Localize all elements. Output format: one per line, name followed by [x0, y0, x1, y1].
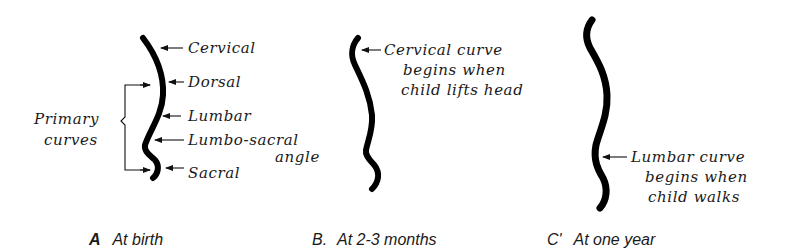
note-b-line2: begins when [403, 61, 506, 79]
primary-curves-bracket [121, 85, 150, 170]
label-primary: Primary [33, 110, 99, 128]
label-dorsal: Dorsal [187, 73, 241, 91]
note-c-line1: Lumbar curve [630, 148, 745, 166]
caption-letter-a: A [88, 231, 101, 248]
caption-letter-b: B. [312, 231, 327, 248]
note-b-line3: child lifts head [401, 81, 523, 99]
note-c-line2: begins when [645, 168, 748, 186]
spinal-curves-figure: Cervical Dorsal Lumbar Lumbo-sacral angl… [0, 0, 798, 248]
panel-c: Lumbar curve begins when child walks C' … [547, 20, 748, 248]
caption-b: At 2-3 months [336, 231, 437, 248]
panel-b: Cervical curve begins when child lifts h… [312, 38, 523, 248]
label-lumbar: Lumbar [187, 107, 251, 125]
label-lumbo-sacral: Lumbo-sacral [187, 131, 299, 149]
note-b-line1: Cervical curve [384, 41, 503, 59]
label-angle: angle [275, 148, 320, 166]
spine-at-one-year [587, 20, 607, 208]
label-cervical: Cervical [188, 39, 256, 57]
svg-text:A At birth: A At birth [88, 231, 163, 248]
label-sacral: Sacral [188, 164, 240, 182]
svg-text:B. At 2-3 months: B. At 2-3 months [312, 231, 437, 248]
label-curves: curves [44, 131, 98, 149]
spine-at-2-3-months [352, 38, 378, 189]
caption-c: At one year [572, 231, 656, 248]
panel-a: Cervical Dorsal Lumbar Lumbo-sacral angl… [33, 38, 320, 248]
note-c-line3: child walks [648, 188, 740, 206]
caption-letter-c: C' [547, 231, 563, 248]
spine-at-birth [143, 38, 163, 178]
svg-text:C' At one year: C' At one year [547, 231, 656, 248]
caption-a: At birth [111, 231, 163, 248]
